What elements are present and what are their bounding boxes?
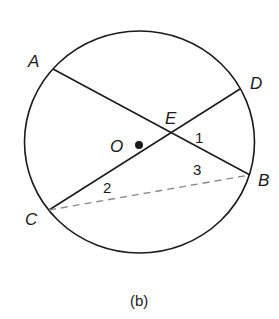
circle-chord-diagram: A D E O B C 1 2 3 (b)	[0, 0, 279, 319]
label-O: O	[110, 137, 123, 156]
angle-label-2: 2	[103, 179, 111, 196]
label-E: E	[165, 109, 177, 128]
angle-label-1: 1	[195, 129, 203, 146]
label-C: C	[25, 210, 38, 229]
chord-CD	[49, 89, 240, 210]
label-D: D	[250, 74, 262, 93]
chord-AB	[53, 69, 250, 175]
label-B: B	[258, 171, 269, 190]
figure-caption: (b)	[130, 292, 148, 309]
angle-label-3: 3	[193, 161, 201, 178]
center-point-O	[135, 141, 143, 149]
segment-CB-dashed	[49, 175, 250, 210]
label-A: A	[27, 52, 39, 71]
